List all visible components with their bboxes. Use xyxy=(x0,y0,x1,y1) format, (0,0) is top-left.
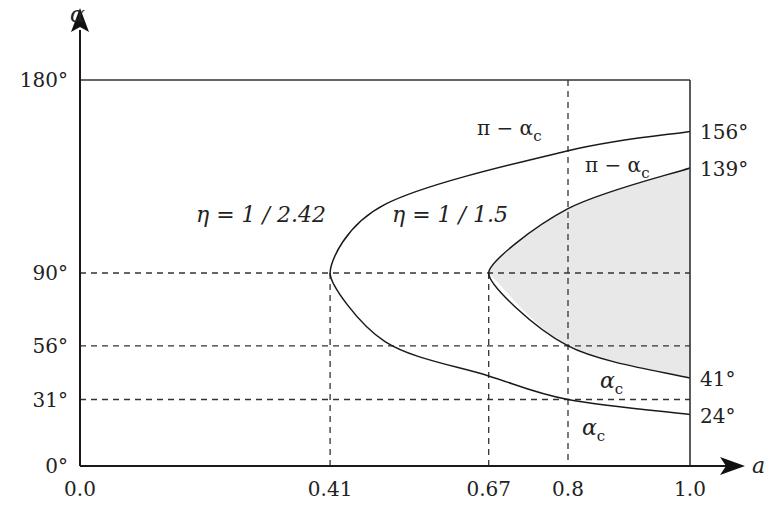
y-tick-label-left: 0° xyxy=(45,454,68,478)
ac-outer-main: α xyxy=(582,415,597,440)
y-tick-label-right: 41° xyxy=(700,367,735,391)
y-tick-label-left: 90° xyxy=(33,261,68,285)
ac-outer-sub: c xyxy=(597,427,605,445)
eta-label-2-text: η = 1 / 1.5 xyxy=(392,202,508,227)
eta-label-1-text: η = 1 / 2.42 xyxy=(196,202,326,227)
pi-minus-ac-inner-main: π − α xyxy=(585,153,641,177)
pi-minus-ac-label-outer: π − αc xyxy=(477,116,542,145)
x-tick-label: 1.0 xyxy=(674,477,706,501)
y-tick-label-left: 31° xyxy=(33,388,68,412)
eta-label-1: η = 1 / 2.42 xyxy=(196,202,326,227)
y-tick-label-right: 156° xyxy=(700,120,748,144)
pi-minus-ac-outer-main: π − α xyxy=(477,116,533,140)
pi-minus-ac-inner-sub: c xyxy=(641,164,649,182)
y-tick-label-left: 56° xyxy=(33,334,68,358)
x-tick-label: 0.8 xyxy=(552,477,584,501)
ac-label-inner: αc xyxy=(600,368,623,398)
y-tick-label-right: 139° xyxy=(700,157,748,181)
pi-minus-ac-label-inner: π − αc xyxy=(585,153,650,182)
eta-label-2: η = 1 / 1.5 xyxy=(392,202,508,227)
x-axis-label: a xyxy=(752,453,765,478)
ac-inner-sub: c xyxy=(615,380,623,398)
x-tick-label: 0.0 xyxy=(64,477,96,501)
chart: α a 0.00.410.670.81.00°31°56°90°180°156°… xyxy=(0,0,780,512)
x-tick-label: 0.67 xyxy=(466,477,511,501)
pi-minus-ac-outer-sub: c xyxy=(533,127,541,145)
y-axis-label: α xyxy=(70,2,85,27)
x-tick-label: 0.41 xyxy=(308,477,353,501)
y-tick-label-right: 24° xyxy=(700,404,735,428)
reference-lines-layer xyxy=(80,80,690,466)
ac-label-outer: αc xyxy=(582,415,605,445)
y-tick-label-left: 180° xyxy=(20,68,68,92)
ac-inner-main: α xyxy=(600,368,615,393)
